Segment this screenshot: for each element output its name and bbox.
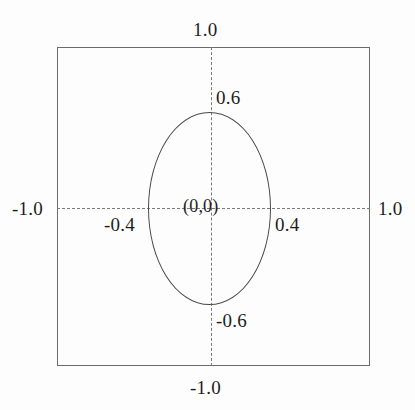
label-ellipse-bottom: -0.6 [216,311,247,330]
label-ellipse-top: 0.6 [216,88,240,107]
label-box-top: 1.0 [193,20,217,39]
label-box-left: -1.0 [12,199,43,218]
label-origin-coordinate: (0,0) [183,197,219,215]
label-box-bottom: -1.0 [190,378,221,397]
label-box-right: 1.0 [378,199,402,218]
label-ellipse-left: -0.4 [104,215,135,234]
label-ellipse-right: 0.4 [275,215,299,234]
geometric-diagram-figure: 1.0 -1.0 -1.0 1.0 0.6 -0.6 -0.4 0.4 (0,0… [0,0,415,410]
